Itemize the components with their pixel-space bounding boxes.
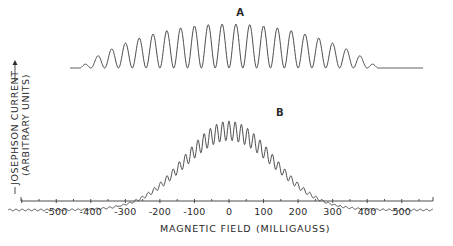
curve-b xyxy=(8,121,433,211)
x-axis-tick-labels: -500-400-300-200-1000100200300400500 xyxy=(45,206,411,217)
x-tick-label: 0 xyxy=(226,206,232,217)
x-tick-label: 400 xyxy=(358,206,377,217)
x-tick-label: -300 xyxy=(114,206,136,217)
curve-a xyxy=(70,24,423,68)
x-tick-label: 200 xyxy=(289,206,308,217)
y-axis-label-line1: JOSEPHSON CURRENT xyxy=(9,70,20,186)
x-tick-label: -400 xyxy=(80,206,102,217)
arrow-up-icon xyxy=(13,60,18,65)
y-axis-title: JOSEPHSON CURRENT (ARBITRARY UNITS) xyxy=(9,60,31,194)
x-tick-label: -500 xyxy=(45,206,67,217)
x-tick-label: -100 xyxy=(183,206,205,217)
x-axis-units: (MILLIGAUSS) xyxy=(256,223,330,234)
x-tick-label: 100 xyxy=(254,206,273,217)
interference-chart: A B JOSEPHSON CURRENT (ARBITRARY UNITS) … xyxy=(0,0,453,246)
y-axis-label-line2: (ARBITRARY UNITS) xyxy=(20,74,31,176)
curve-b-label: B xyxy=(276,107,284,118)
x-tick-label: 500 xyxy=(392,206,411,217)
x-axis-ticks xyxy=(21,197,433,203)
x-tick-label: 300 xyxy=(323,206,342,217)
curve-a-label: A xyxy=(236,7,244,18)
x-axis-title: MAGNETIC FIELD xyxy=(160,223,251,234)
x-axis: -500-400-300-200-1000100200300400500 xyxy=(21,197,433,217)
x-tick-label: -200 xyxy=(149,206,171,217)
